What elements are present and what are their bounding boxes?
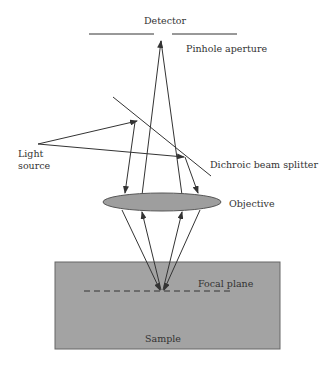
- light-source-label-2: source: [18, 160, 51, 171]
- emission-up-right: [161, 41, 182, 195]
- focal-plane-label: Focal plane: [198, 278, 254, 289]
- sample-label: Sample: [145, 333, 181, 344]
- pinhole-label: Pinhole aperture: [186, 43, 267, 54]
- detector-label: Detector: [144, 15, 187, 26]
- excitation-down-left: [125, 122, 135, 193]
- light-ray-lower: [38, 144, 184, 157]
- beam-splitter-label: Dichroic beam splitter: [210, 159, 318, 170]
- excitation-down-right: [185, 157, 198, 193]
- objective-lens: [103, 193, 221, 211]
- beam-splitter: [113, 97, 211, 176]
- confocal-diagram: Detector Pinhole aperture Light source D…: [0, 0, 320, 366]
- emission-up-left: [142, 41, 161, 195]
- light-ray-upper: [38, 121, 137, 144]
- objective-label: Objective: [229, 198, 275, 209]
- light-source-label-1: Light: [18, 148, 44, 159]
